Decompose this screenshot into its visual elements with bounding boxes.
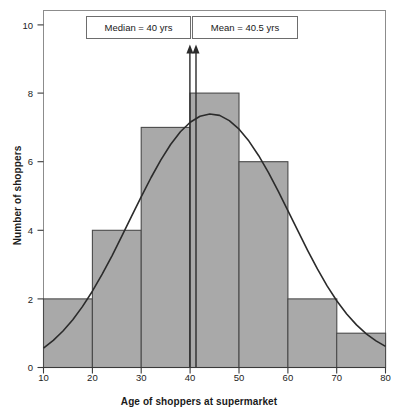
histogram-bar [92, 230, 141, 367]
histogram-figure: Median = 40 yrs Mean = 40.5 yrs 10 20 30… [0, 0, 398, 415]
median-callout-box: Median = 40 yrs [86, 16, 191, 39]
histogram-bar [190, 93, 239, 367]
x-tick-label: 30 [127, 372, 155, 383]
x-tick-label: 10 [30, 372, 58, 383]
y-axis-ticks [38, 25, 44, 368]
histogram-bar [337, 333, 386, 367]
y-tick-label: 10 [11, 20, 33, 31]
y-tick-label: 0 [11, 362, 33, 373]
x-tick-label: 40 [176, 372, 204, 383]
chart-canvas [0, 0, 398, 415]
x-tick-label: 60 [274, 372, 302, 383]
x-axis-title: Age of shoppers at supermarket [0, 396, 398, 407]
histogram-bar [288, 299, 337, 368]
x-tick-label: 80 [372, 372, 398, 383]
y-tick-label: 2 [11, 294, 33, 305]
x-tick-label: 70 [323, 372, 351, 383]
y-tick-label: 8 [11, 88, 33, 99]
histogram-bar [44, 299, 93, 368]
y-axis-title: Number of shoppers [12, 126, 23, 266]
histogram-bar [239, 162, 288, 368]
histogram-bar [141, 127, 190, 367]
x-tick-label: 50 [225, 372, 253, 383]
mean-callout-box: Mean = 40.5 yrs [192, 16, 298, 39]
x-tick-label: 20 [78, 372, 106, 383]
